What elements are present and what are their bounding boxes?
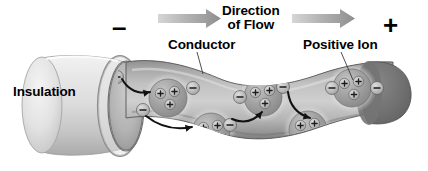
positive-charge: [250, 87, 260, 97]
flow-arrow-right: [292, 9, 355, 28]
insulation-left-opening: [22, 57, 62, 153]
positive-charge: [295, 120, 305, 130]
positive-ion: [143, 73, 193, 123]
electron: [371, 82, 384, 95]
positive-charge: [305, 131, 315, 141]
electron: [326, 82, 339, 95]
positive-charge: [169, 86, 179, 96]
positive-terminal-symbol: +: [383, 12, 398, 39]
direction-of-flow-line2: of Flow: [222, 18, 280, 32]
positive-charge: [212, 120, 222, 130]
insulation-label: Insulation: [13, 85, 76, 99]
positive-charge: [349, 89, 359, 99]
flow-arrow-left: [158, 9, 221, 28]
electron: [278, 137, 291, 150]
conductor-label: Conductor: [168, 38, 235, 52]
positive-ion: [186, 107, 236, 157]
electron: [181, 139, 194, 152]
positive-charge: [339, 78, 349, 88]
electron: [187, 82, 200, 95]
positive-ion-label: Positive Ion: [303, 38, 378, 52]
direction-of-flow-line1: Direction: [222, 4, 280, 18]
positive-charge: [264, 85, 274, 95]
positive-charge: [155, 88, 165, 98]
negative-terminal-symbol: –: [112, 14, 126, 41]
electron: [137, 104, 150, 117]
positive-charge: [165, 99, 175, 109]
electron: [234, 91, 247, 104]
positive-charge: [260, 98, 270, 108]
figure-canvas: Insulation Conductor Direction of Flow P…: [0, 0, 428, 171]
positive-charge: [198, 122, 208, 132]
positive-charge: [353, 76, 363, 86]
positive-charge: [208, 133, 218, 143]
direction-of-flow-label: Direction of Flow: [222, 4, 280, 32]
